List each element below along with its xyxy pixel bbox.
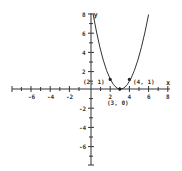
point-2-1 — [109, 78, 112, 81]
x-tick-label: -6 — [28, 93, 36, 100]
parabola-graph: -6 -4 -2 2 4 6 8 8 6 4 2 -2 -4 -6 y x (2… — [0, 0, 182, 171]
x-tick-label: 6 — [147, 93, 151, 100]
point-4-1 — [128, 78, 131, 81]
point-label-4-1: (4, 1) — [133, 78, 155, 85]
point-3-0 — [118, 87, 121, 90]
point-label-2-1: (2, 1) — [83, 78, 105, 85]
x-tick-label: 8 — [166, 93, 170, 100]
x-tick-label: -4 — [47, 93, 55, 100]
y-tick-label: 8 — [82, 11, 86, 18]
x-tick-label: -2 — [66, 93, 74, 100]
y-tick-label: -6 — [79, 143, 87, 150]
point-label-3-0: (3, 0) — [107, 99, 129, 106]
x-axis-label: x — [166, 79, 171, 87]
y-tick-label: 6 — [82, 30, 86, 37]
y-tick-label: -2 — [79, 105, 87, 112]
y-tick-label: 2 — [82, 68, 86, 75]
y-tick-label: 4 — [82, 49, 86, 56]
y-tick-label: -4 — [79, 124, 87, 131]
